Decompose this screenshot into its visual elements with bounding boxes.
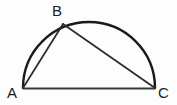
vertex-label-c: C (158, 85, 169, 100)
segment-ab (23, 24, 63, 88)
geometry-canvas (0, 0, 177, 105)
vertex-label-b: B (52, 3, 62, 18)
vertex-label-a: A (7, 85, 17, 100)
segment-bc (63, 24, 155, 88)
geometry-figure: A B C (0, 0, 177, 105)
